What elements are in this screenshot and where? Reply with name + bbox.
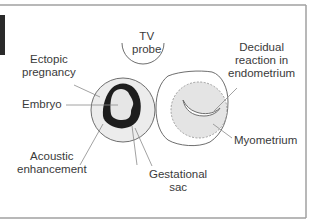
- label-acoustic-line2: enhancement: [17, 163, 87, 176]
- label-acoustic-line1: Acoustic: [17, 150, 87, 163]
- label-decidual-line3: endometrium: [228, 67, 295, 80]
- label-gestational-line1: Gestational: [149, 168, 207, 181]
- label-embryo: Embryo: [22, 98, 62, 111]
- label-decidual-line2: reaction in: [228, 54, 295, 67]
- label-ectopic-line1: Ectopic: [22, 53, 76, 66]
- leader-ectopic: [74, 85, 100, 97]
- label-tv-probe: TV probe: [132, 30, 161, 56]
- label-decidual-line1: Decidual: [228, 41, 295, 54]
- label-tv-probe-line2: probe: [132, 43, 161, 56]
- label-gestational-sac: Gestational sac: [149, 168, 207, 194]
- label-decidual-reaction: Decidual reaction in endometrium: [228, 41, 295, 80]
- left-edge-bar: [0, 15, 5, 55]
- label-tv-probe-line1: TV: [132, 30, 161, 43]
- label-acoustic-enhancement: Acoustic enhancement: [17, 150, 87, 176]
- label-ectopic-line2: pregnancy: [22, 66, 76, 79]
- label-ectopic-pregnancy: Ectopic pregnancy: [22, 53, 76, 79]
- label-gestational-line2: sac: [149, 181, 207, 194]
- label-myometrium: Myometrium: [234, 134, 297, 147]
